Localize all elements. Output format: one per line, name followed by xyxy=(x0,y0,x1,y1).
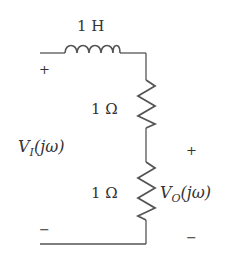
input-minus-sign: − xyxy=(39,222,50,237)
circuit-diagram: 1 H + 1 Ω VI(jω) + 1 Ω VO(jω) − − xyxy=(0,0,238,263)
resistor-bottom-label: 1 Ω xyxy=(91,184,118,202)
inductor-symbol xyxy=(65,46,120,54)
resistor-top-symbol xyxy=(138,80,155,128)
output-plus-sign: + xyxy=(186,143,197,158)
output-voltage-label: VO(jω) xyxy=(160,183,211,205)
output-voltage-arg: (jω) xyxy=(181,183,212,202)
input-voltage-arg: (jω) xyxy=(34,137,65,156)
input-plus-sign: + xyxy=(39,62,50,77)
input-voltage-label: VI(jω) xyxy=(18,137,64,159)
inductor-label: 1 H xyxy=(77,17,104,35)
resistor-bottom-symbol xyxy=(138,162,155,220)
output-voltage-sub: O xyxy=(172,192,181,205)
resistor-top-label: 1 Ω xyxy=(91,100,118,118)
output-minus-sign: − xyxy=(186,230,197,245)
